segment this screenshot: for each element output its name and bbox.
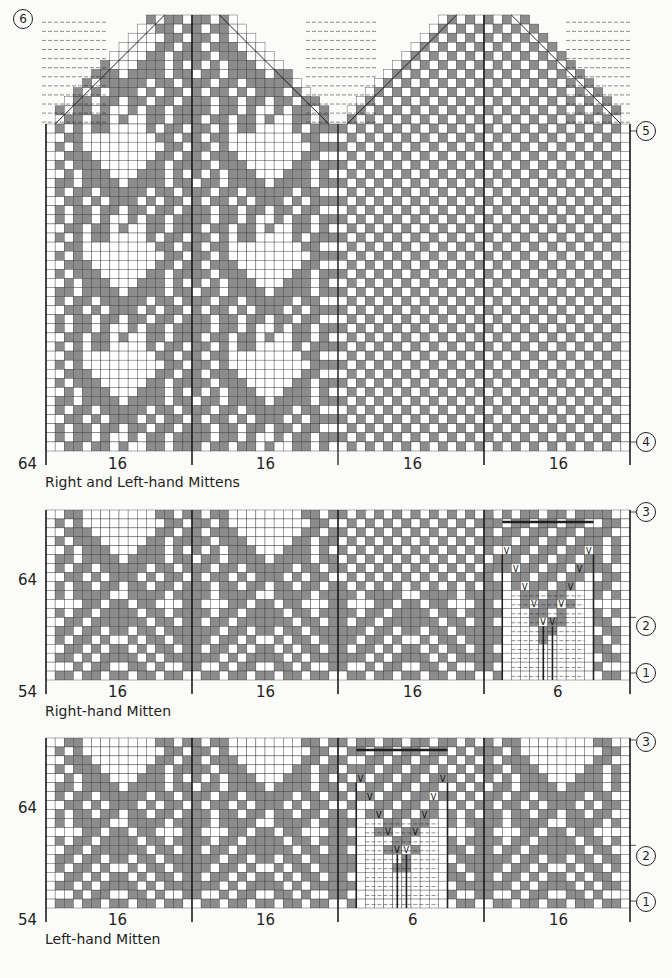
svg-text:V: V bbox=[358, 775, 364, 784]
marker-4: 4 bbox=[636, 432, 656, 452]
svg-text:V: V bbox=[577, 565, 583, 574]
row-label-64: 64 bbox=[18, 800, 37, 816]
row-label-54: 54 bbox=[18, 912, 37, 928]
svg-text:V: V bbox=[394, 846, 400, 855]
svg-text:V: V bbox=[367, 793, 373, 802]
chart-caption: Left-hand Mitten bbox=[45, 931, 161, 947]
section-label: 16 bbox=[256, 684, 275, 700]
svg-text:V: V bbox=[504, 547, 510, 556]
section-label: 16 bbox=[108, 912, 127, 928]
svg-text:V: V bbox=[440, 775, 446, 784]
svg-text:V: V bbox=[531, 600, 537, 609]
section-label: 6 bbox=[408, 912, 418, 928]
section-label: 16 bbox=[403, 456, 422, 472]
chart-caption: Right and Left-hand Mittens bbox=[45, 474, 240, 490]
row-label-54: 54 bbox=[18, 684, 37, 700]
section-label: 16 bbox=[108, 456, 127, 472]
row-label-64: 64 bbox=[18, 572, 37, 588]
marker-5: 5 bbox=[636, 121, 656, 141]
chart-caption: Right-hand Mitten bbox=[45, 703, 171, 719]
section-label: 6 bbox=[553, 684, 563, 700]
section-label: 16 bbox=[256, 456, 275, 472]
marker-6: 6 bbox=[13, 9, 33, 29]
svg-text:V: V bbox=[568, 583, 574, 592]
svg-text:V: V bbox=[522, 583, 528, 592]
marker-3: 3 bbox=[636, 502, 656, 522]
svg-text:V: V bbox=[403, 846, 409, 855]
marker-1: 1 bbox=[636, 892, 656, 912]
section-label: 16 bbox=[549, 456, 568, 472]
section-label: 16 bbox=[403, 684, 422, 700]
section-label: 16 bbox=[108, 684, 127, 700]
svg-text:V: V bbox=[385, 828, 391, 837]
marker-2: 2 bbox=[636, 846, 656, 866]
section-label: 16 bbox=[256, 912, 275, 928]
row-label-64: 64 bbox=[18, 456, 37, 472]
svg-text:V: V bbox=[586, 547, 592, 556]
svg-text:V: V bbox=[413, 828, 419, 837]
svg-text:V: V bbox=[422, 811, 428, 820]
svg-text:V: V bbox=[559, 600, 565, 609]
svg-text:V: V bbox=[376, 811, 382, 820]
marker-1: 1 bbox=[636, 663, 656, 683]
svg-text:V: V bbox=[549, 618, 555, 627]
marker-2: 2 bbox=[636, 616, 656, 636]
svg-text:V: V bbox=[513, 565, 519, 574]
section-label: 16 bbox=[549, 912, 568, 928]
svg-text:V: V bbox=[540, 618, 546, 627]
marker-3: 3 bbox=[636, 732, 656, 752]
svg-text:V: V bbox=[431, 793, 437, 802]
